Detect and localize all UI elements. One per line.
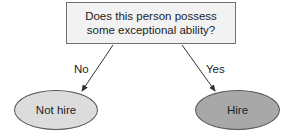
hire-label: Hire (227, 104, 248, 116)
hire-node: Hire (195, 90, 280, 130)
not-hire-node: Not hire (14, 90, 98, 130)
question-box: Does this person possess some exceptiona… (66, 2, 236, 44)
yes-branch-label: Yes (206, 63, 225, 75)
decision-tree-diagram: Does this person possess some exceptiona… (0, 0, 292, 136)
question-text: Does this person possess some exceptiona… (73, 9, 229, 37)
not-hire-label: Not hire (36, 104, 76, 116)
no-branch-label: No (74, 63, 89, 75)
